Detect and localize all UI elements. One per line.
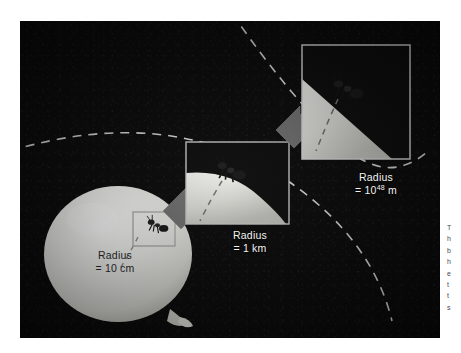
margin-body-text: T h b h e t t s bbox=[447, 222, 461, 313]
caption-far: Radius = 1048 m bbox=[336, 171, 416, 196]
figure-container: Radius = 10 cm Radius = 1 km Radius = 10… bbox=[0, 0, 461, 353]
magnified-panel-1e48m bbox=[302, 45, 410, 159]
illustration-panel: Radius = 10 cm Radius = 1 km Radius = 10… bbox=[20, 21, 440, 338]
caption-mid-line1: Radius bbox=[233, 229, 267, 241]
caption-balloon: Radius = 10 cm bbox=[72, 249, 158, 274]
margin-line: t bbox=[447, 279, 461, 290]
caption-far-suffix: m bbox=[385, 184, 397, 196]
margin-line: h bbox=[447, 256, 461, 267]
caption-balloon-line1: Radius bbox=[98, 249, 132, 261]
caption-mid: Radius = 1 km bbox=[210, 229, 290, 254]
margin-line: t bbox=[447, 290, 461, 301]
margin-line: h bbox=[447, 233, 461, 244]
margin-line: s bbox=[447, 302, 461, 313]
margin-line: T bbox=[447, 222, 461, 233]
magnified-panel-1km bbox=[186, 142, 289, 224]
caption-far-line1: Radius bbox=[359, 171, 393, 183]
caption-mid-line2: = 1 km bbox=[210, 242, 290, 255]
margin-line: b bbox=[447, 245, 461, 256]
margin-line: e bbox=[447, 268, 461, 279]
caption-far-exponent: 48 bbox=[377, 183, 385, 190]
caption-far-prefix: = 10 bbox=[355, 184, 377, 196]
caption-far-line2: = 1048 m bbox=[336, 184, 416, 197]
caption-balloon-line2: = 10 cm bbox=[72, 262, 158, 275]
